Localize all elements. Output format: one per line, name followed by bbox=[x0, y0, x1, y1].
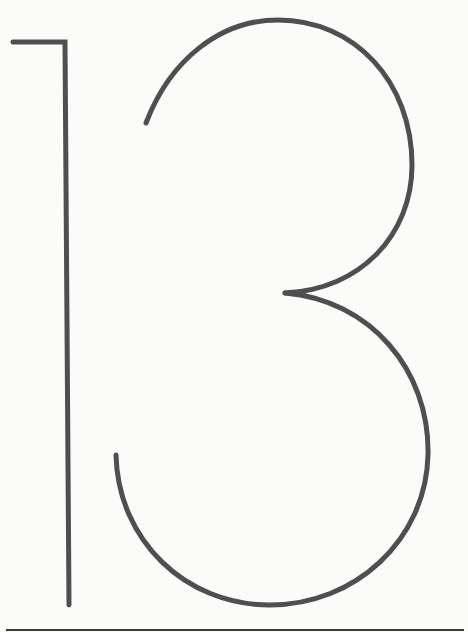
digit-one-stroke bbox=[13, 42, 69, 605]
digit-three-upper-bowl bbox=[146, 20, 412, 293]
digit-three-lower-bowl bbox=[116, 293, 428, 605]
numeral-drawing bbox=[0, 0, 468, 632]
